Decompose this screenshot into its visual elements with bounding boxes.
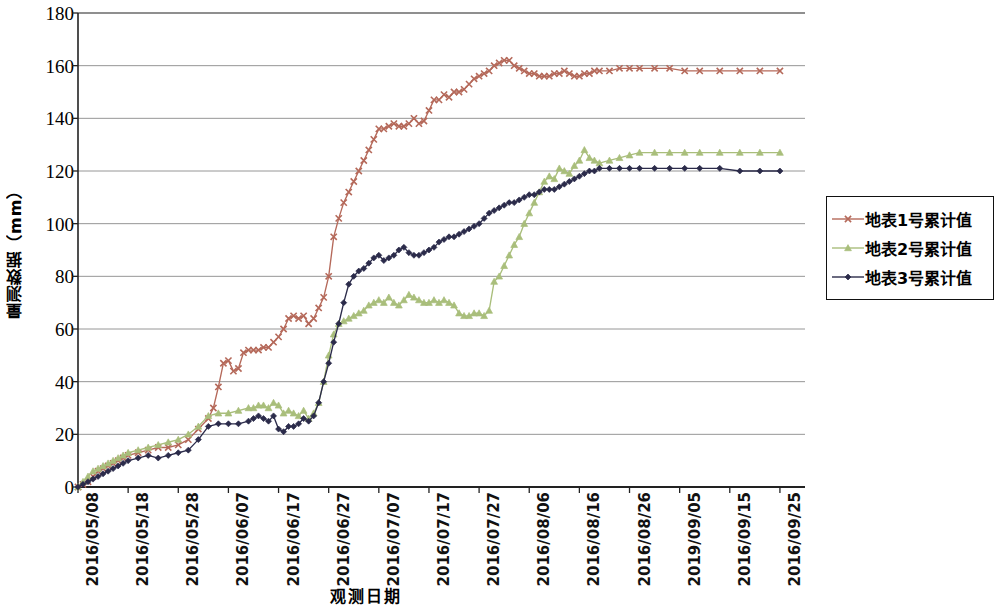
x-tick-label: 2016/05/18 <box>134 492 152 586</box>
legend-item-1[interactable]: 地表1号累计值 <box>831 204 991 233</box>
x-tick-label: 2016/08/16 <box>585 492 603 586</box>
x-tick-label: 2016/07/27 <box>485 492 503 586</box>
line-chart: 量测数据（mm） 020406080100120140160180 2016/0… <box>0 0 995 609</box>
x-axis-tick-labels: 2016/05/082016/05/182016/05/282016/06/07… <box>0 0 995 609</box>
x-tick-label: 2016/09/15 <box>736 492 754 586</box>
legend-diamond-icon <box>831 268 865 286</box>
x-tick-label: 2016/05/28 <box>184 492 202 586</box>
x-tick-label: 2016/07/07 <box>385 492 403 586</box>
x-tick-label: 2016/08/06 <box>535 492 553 586</box>
x-tick-label: 2016/06/27 <box>335 492 353 586</box>
legend-item-2[interactable]: 地表2号累计值 <box>831 233 991 262</box>
data-point-marker <box>845 274 851 280</box>
x-tick-label: 2016/08/26 <box>636 492 654 586</box>
x-tick-label: 2016/06/07 <box>234 492 252 586</box>
x-tick-label: 2016/09/25 <box>786 492 804 586</box>
legend-item-label: 地表1号累计值 <box>865 207 972 231</box>
diamond-marker <box>845 274 851 280</box>
x-tick-label: 2019/09/05 <box>686 492 704 586</box>
legend-item-label: 地表2号累计值 <box>865 236 972 260</box>
legend-triangle-icon <box>831 239 865 257</box>
x-tick-label: 2016/05/08 <box>84 492 102 586</box>
legend-item-label: 地表3号累计值 <box>865 265 972 289</box>
x-tick-label: 2016/07/17 <box>435 492 453 586</box>
x-axis-title: 观测日期 <box>330 583 402 607</box>
chart-legend: 地表1号累计值地表2号累计值地表3号累计值 <box>826 196 994 300</box>
legend-item-3[interactable]: 地表3号累计值 <box>831 262 991 291</box>
x-tick-label: 2016/06/17 <box>285 492 303 586</box>
legend-x-icon <box>831 210 865 228</box>
